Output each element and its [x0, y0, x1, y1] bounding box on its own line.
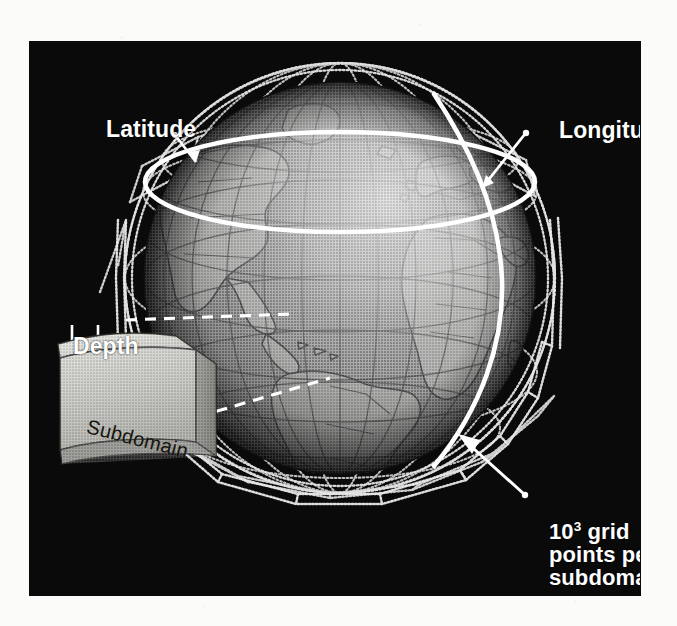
- label-grid-note: 103 grid points per subdomain: [549, 520, 640, 590]
- label-latitude: Latitude: [106, 118, 196, 141]
- grid-note-line-2: points per: [549, 544, 640, 567]
- label-depth: Depth: [73, 335, 139, 358]
- grid-note-line-3: subdomain: [549, 567, 640, 590]
- grid-note-base: 10: [549, 519, 574, 544]
- grid-note-line-1: 103 grid: [549, 520, 640, 544]
- grid-note-suffix: grid: [581, 519, 629, 544]
- figure-panel: Latitude Longitude Depth 103 grid points…: [30, 42, 640, 595]
- label-longitude: Longitude: [559, 119, 640, 142]
